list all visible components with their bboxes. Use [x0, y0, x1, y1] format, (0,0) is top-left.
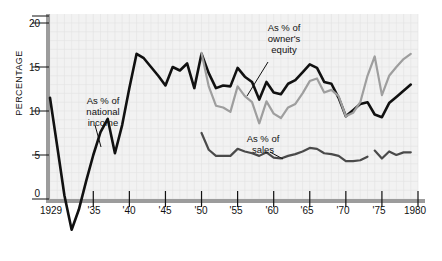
- chart-figure: PERCENTAGE 20 15 10 5 0 1929 '35 '40 '45…: [0, 0, 442, 261]
- y-tick-label-0: 0: [22, 188, 40, 199]
- owners-equity-label: As % of owner's equity: [253, 22, 315, 55]
- y-tick-label-5: 5: [22, 150, 40, 161]
- national-income-label: As % of national income: [72, 95, 134, 128]
- owners-equity-label-line3: equity: [253, 44, 315, 55]
- chart-plot-area: [0, 0, 442, 261]
- y-tick-label-15: 15: [22, 62, 40, 73]
- national-income-label-line2: national: [72, 106, 134, 117]
- sales-label-line2: sales: [232, 144, 294, 155]
- sales-label: As % of sales: [232, 133, 294, 155]
- x-tick-label-1965: '65: [290, 205, 324, 216]
- owners-equity-label-line1: As % of: [253, 22, 315, 33]
- x-tick-label-1955: '55: [219, 205, 253, 216]
- x-tick-label-1935: '35: [77, 205, 111, 216]
- x-tick-label-1950: '50: [184, 205, 218, 216]
- x-tick-label-1940: '40: [112, 205, 146, 216]
- x-tick-label-1975: '75: [362, 205, 396, 216]
- x-tick-label-1945: '45: [148, 205, 182, 216]
- y-tick-label-20: 20: [22, 18, 40, 29]
- x-tick-label-1970: '70: [326, 205, 360, 216]
- y-axis-line: [46, 14, 50, 203]
- y-tick-label-10: 10: [22, 106, 40, 117]
- sales-label-line1: As % of: [232, 133, 294, 144]
- national-income-label-line1: As % of: [72, 95, 134, 106]
- x-axis-line: [46, 199, 425, 203]
- x-tick-label-1960: '60: [255, 205, 289, 216]
- x-tick-label-1929: 1929: [34, 205, 68, 216]
- x-tick-label-1980: 1980: [398, 205, 432, 216]
- national-income-label-line3: income: [72, 117, 134, 128]
- owners-equity-label-line2: owner's: [253, 33, 315, 44]
